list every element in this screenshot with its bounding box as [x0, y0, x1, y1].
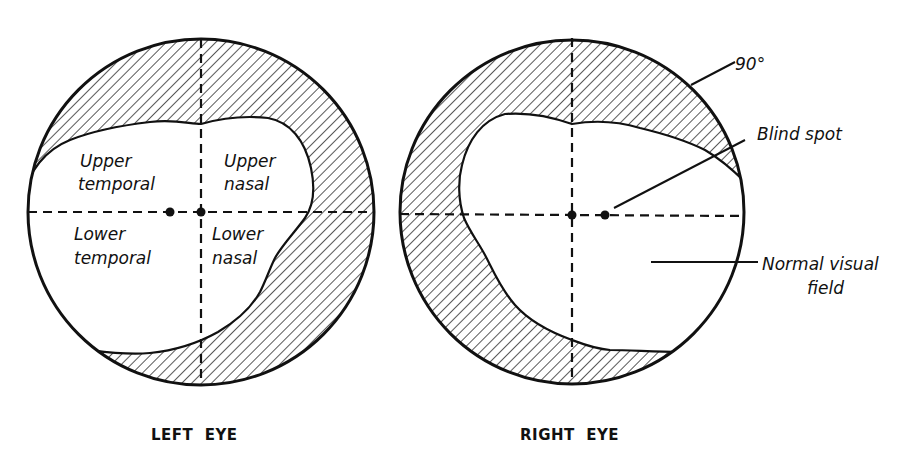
- label-upper-temporal-1: Upper: [80, 151, 132, 171]
- left-eye-caption: LEFT EYE: [151, 426, 238, 444]
- label-lower-temporal-2: temporal: [74, 248, 151, 268]
- visual-field-diagram: Upper temporal Upper nasal Lower tempora…: [0, 0, 913, 469]
- label-upper-nasal-2: nasal: [224, 174, 269, 194]
- right-eye-blind-spot: [601, 211, 610, 220]
- leader-90-degree: [691, 62, 735, 85]
- right-eye-fixation-point: [568, 211, 577, 220]
- left-eye-blind-spot: [166, 208, 175, 217]
- label-lower-nasal-1: Lower: [212, 224, 264, 244]
- label-90-degree: 90°: [735, 54, 765, 74]
- label-upper-temporal-2: temporal: [78, 174, 155, 194]
- label-upper-nasal-1: Upper: [224, 151, 276, 171]
- right-eye-field: 90° Blind spot Normal visual field RIGHT…: [400, 38, 879, 444]
- label-normal-visual-field-1: Normal visual: [762, 254, 879, 274]
- label-normal-visual-field-2: field: [807, 278, 844, 298]
- right-eye-caption: RIGHT EYE: [520, 426, 619, 444]
- label-lower-nasal-2: nasal: [212, 248, 257, 268]
- left-eye-field: Upper temporal Upper nasal Lower tempora…: [0, 39, 374, 444]
- left-eye-fixation-point: [197, 208, 206, 217]
- label-blind-spot: Blind spot: [757, 124, 843, 144]
- label-lower-temporal-1: Lower: [74, 224, 126, 244]
